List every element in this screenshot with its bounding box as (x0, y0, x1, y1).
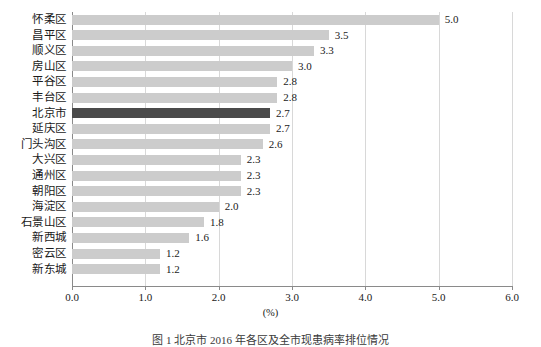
bar-row: 北京市2.7 (0, 106, 541, 122)
bar-row: 石景山区1.8 (0, 215, 541, 231)
bar (72, 155, 241, 165)
x-tick-mark (145, 286, 146, 290)
bar-value-label: 2.6 (269, 137, 283, 153)
bar-row: 海淀区2.0 (0, 199, 541, 215)
bar-value-label: 3.3 (320, 43, 334, 59)
bar (72, 171, 241, 181)
bar-value-label: 1.2 (166, 262, 180, 278)
x-tick-label: 1.0 (125, 291, 165, 303)
bar (72, 249, 160, 259)
bar (72, 77, 277, 87)
bar (72, 264, 160, 274)
x-tick-mark (365, 286, 366, 290)
bar-row: 昌平区3.5 (0, 28, 541, 44)
bar-value-label: 2.3 (247, 152, 261, 168)
bar-value-label: 2.8 (283, 74, 297, 90)
bar (72, 61, 292, 71)
bar (72, 202, 219, 212)
bar-row: 门头沟区2.6 (0, 137, 541, 153)
bar-row: 新东城1.2 (0, 262, 541, 278)
x-tick-mark (219, 286, 220, 290)
bar-value-label: 1.6 (195, 230, 209, 246)
x-tick-mark (292, 286, 293, 290)
category-label: 海淀区 (0, 199, 66, 215)
bar (72, 186, 241, 196)
bar-value-label: 2.8 (283, 90, 297, 106)
bar-row: 新西城1.6 (0, 230, 541, 246)
bar-rows: 怀柔区5.0昌平区3.5顺义区3.3房山区3.0平谷区2.8丰台区2.8北京市2… (0, 0, 541, 286)
bar-highlighted (72, 108, 270, 118)
bar-row: 怀柔区5.0 (0, 12, 541, 28)
category-label: 密云区 (0, 246, 66, 262)
bar-row: 通州区2.3 (0, 168, 541, 184)
bar-value-label: 1.2 (166, 246, 180, 262)
bar-value-label: 2.3 (247, 168, 261, 184)
category-label: 房山区 (0, 59, 66, 75)
bar-value-label: 2.7 (276, 121, 290, 137)
bar-row: 延庆区2.7 (0, 121, 541, 137)
bar-value-label: 3.5 (335, 28, 349, 44)
bar (72, 124, 270, 134)
category-label: 通州区 (0, 168, 66, 184)
x-tick-label: 4.0 (345, 291, 385, 303)
bar-row: 房山区3.0 (0, 59, 541, 75)
bar (72, 139, 263, 149)
category-label: 石景山区 (0, 215, 66, 231)
category-label: 朝阳区 (0, 184, 66, 200)
bar (72, 233, 189, 243)
category-label: 昌平区 (0, 28, 66, 44)
x-tick-mark (439, 286, 440, 290)
bar-value-label: 2.3 (247, 184, 261, 200)
bar-value-label: 2.0 (225, 199, 239, 215)
x-tick-mark (512, 286, 513, 290)
figure-caption: 图 1 北京市 2016 年各区及全市现患病率排位情况 (0, 331, 541, 347)
category-label: 大兴区 (0, 152, 66, 168)
category-label: 新东城 (0, 262, 66, 278)
bar-value-label: 5.0 (445, 12, 459, 28)
bar-row: 密云区1.2 (0, 246, 541, 262)
bar-row: 丰台区2.8 (0, 90, 541, 106)
category-label: 门头沟区 (0, 137, 66, 153)
bar-value-label: 1.8 (210, 215, 224, 231)
bar (72, 93, 277, 103)
x-tick-label: 5.0 (419, 291, 459, 303)
x-tick-mark (72, 286, 73, 290)
category-label: 北京市 (0, 106, 66, 122)
category-label: 怀柔区 (0, 12, 66, 28)
bar (72, 46, 314, 56)
x-axis-unit-label: (%) (0, 307, 541, 318)
bar (72, 217, 204, 227)
x-tick-label: 3.0 (272, 291, 312, 303)
category-label: 平谷区 (0, 74, 66, 90)
category-label: 顺义区 (0, 43, 66, 59)
bar-value-label: 3.0 (298, 59, 312, 75)
bar-row: 顺义区3.3 (0, 43, 541, 59)
x-tick-label: 2.0 (199, 291, 239, 303)
bar (72, 15, 439, 25)
bar-value-label: 2.7 (276, 106, 290, 122)
bar-row: 平谷区2.8 (0, 74, 541, 90)
x-tick-label: 0.0 (52, 291, 92, 303)
category-label: 新西城 (0, 230, 66, 246)
category-label: 丰台区 (0, 90, 66, 106)
x-tick-label: 6.0 (492, 291, 532, 303)
bar-row: 朝阳区2.3 (0, 184, 541, 200)
bar-row: 大兴区2.3 (0, 152, 541, 168)
bar (72, 30, 329, 40)
category-label: 延庆区 (0, 121, 66, 137)
